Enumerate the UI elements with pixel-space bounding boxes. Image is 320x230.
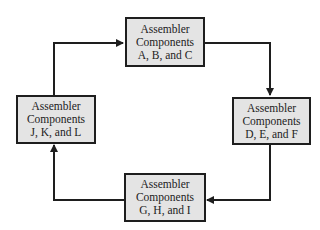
arrow-left-to-top	[54, 43, 123, 95]
arrow-top-to-right	[205, 43, 270, 95]
node-label-line1: Assembler	[140, 178, 189, 191]
node-left-jkl: Assembler Components J, K, and L	[16, 95, 96, 144]
node-label-line1: Assembler	[140, 23, 189, 36]
node-label-line2: Components	[136, 191, 194, 204]
node-label-line3: J, K, and L	[31, 126, 82, 139]
node-label-line2: Components	[27, 113, 85, 126]
node-label-line2: Components	[242, 115, 300, 128]
arrow-bottom-to-left	[54, 145, 124, 200]
node-label-line3: D, E, and F	[245, 128, 298, 141]
node-top-abc: Assembler Components A, B, and C	[125, 17, 205, 67]
node-label-line3: G, H, and I	[139, 204, 190, 217]
node-label-line1: Assembler	[31, 100, 80, 113]
node-label-line1: Assembler	[247, 102, 296, 115]
node-label-line2: Components	[136, 36, 194, 49]
node-right-def: Assembler Components D, E, and F	[232, 97, 311, 145]
node-label-line3: A, B, and C	[138, 49, 193, 62]
arrow-right-to-bottom	[207, 145, 270, 200]
node-bottom-ghi: Assembler Components G, H, and I	[124, 173, 206, 222]
